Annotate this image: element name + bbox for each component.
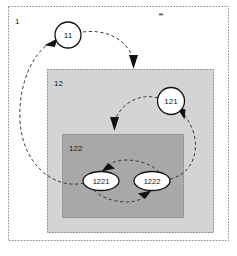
connection-11-to-12-arrowhead xyxy=(129,55,138,69)
node-1222[interactable]: 1222 xyxy=(134,172,170,191)
connection-11-to-12 xyxy=(83,31,138,69)
node-1221-label: 1221 xyxy=(93,177,110,186)
node-1222-label: 1222 xyxy=(144,177,161,186)
node-121[interactable]: 121 xyxy=(158,88,185,115)
node-11-label: 11 xyxy=(64,31,73,40)
connection-11-to-12-path xyxy=(83,31,133,58)
top-tick-mark xyxy=(159,14,163,16)
container-122-label: 122 xyxy=(69,144,83,153)
node-1221[interactable]: 1221 xyxy=(83,172,119,191)
container-12-label: 12 xyxy=(54,79,63,88)
diagram-canvas: 1 12 122 xyxy=(0,0,237,256)
node-11[interactable]: 11 xyxy=(55,22,81,48)
container-1-label: 1 xyxy=(15,17,20,26)
node-121-label: 121 xyxy=(164,97,178,106)
figure-svg: 1 12 122 xyxy=(0,0,237,256)
